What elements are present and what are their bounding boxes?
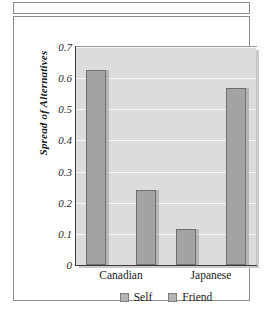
legend-label: Self <box>134 291 153 303</box>
bar-japanese-self <box>176 229 196 265</box>
figure-frame-body: 0.70.60.50.40.30.20.10 Spread of Alterna… <box>13 16 250 301</box>
legend-swatch-icon <box>120 293 129 302</box>
y-axis-title: Spread of Alternatives <box>37 38 49 168</box>
bar-canadian-friend <box>136 190 156 265</box>
x-tick-label-japanese: Japanese <box>191 269 232 281</box>
x-axis-tick-labels: CanadianJapanese <box>76 269 256 287</box>
plot-top-rule <box>75 46 257 47</box>
legend-swatch-icon <box>168 293 177 302</box>
bar-japanese-friend <box>226 88 246 266</box>
figure-root: 0.70.60.50.40.30.20.10 Spread of Alterna… <box>0 0 274 317</box>
legend-item-self: Self <box>120 291 153 303</box>
y-axis-line <box>75 46 76 266</box>
bar-canadian-self <box>86 70 106 265</box>
figure-frame-header <box>13 2 250 14</box>
x-tick-label-canadian: Canadian <box>99 269 142 281</box>
y-tick-label: 0.1 <box>42 228 72 240</box>
x-axis-line <box>75 265 257 266</box>
gridline <box>76 47 256 48</box>
y-tick-label: 0 <box>42 259 72 271</box>
legend-label: Friend <box>182 291 212 303</box>
y-tick-label: 0.2 <box>42 197 72 209</box>
chart-legend: SelfFriend <box>76 291 256 303</box>
plot-area <box>76 47 256 265</box>
legend-item-friend: Friend <box>168 291 212 303</box>
